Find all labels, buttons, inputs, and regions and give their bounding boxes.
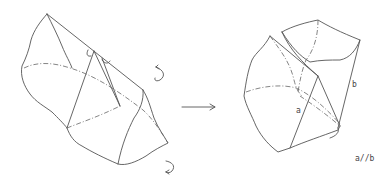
caption-parallel: a//b — [355, 154, 374, 163]
right-solid — [244, 20, 360, 152]
diagram-canvas — [0, 0, 390, 189]
transform-arrow-icon — [182, 104, 215, 110]
left-solid — [21, 14, 168, 165]
edge-label-b: b — [352, 80, 357, 89]
edge-label-a: a — [296, 106, 301, 115]
